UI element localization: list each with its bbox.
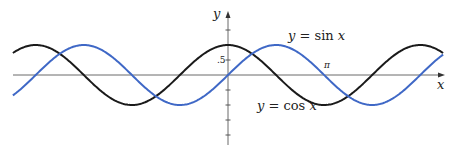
y-axis-label: y (212, 6, 221, 21)
pi-tick-label: π (323, 60, 331, 70)
sin-label-eq: = sin (295, 28, 338, 43)
cos-label-eq: = cos (264, 98, 309, 113)
cos-label-x: x (309, 98, 317, 113)
sin-cos-chart: y x .5 π y = sin x y = cos x (0, 0, 450, 147)
sin-label: y = sin x (287, 28, 346, 43)
y-axis-arrow-icon (226, 11, 231, 18)
cos-label: y = cos x (256, 98, 317, 113)
x-axis-label: x (437, 77, 445, 92)
sin-label-x: x (338, 28, 346, 43)
half-tick-label: .5 (217, 55, 226, 65)
